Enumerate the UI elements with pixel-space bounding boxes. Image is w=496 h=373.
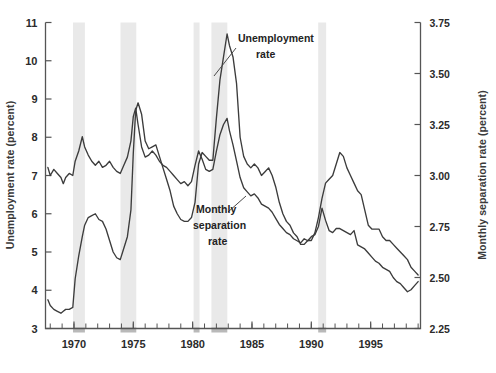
plot-frame bbox=[46, 23, 421, 329]
y-axis-left-title: Unemployment rate (percent) bbox=[4, 101, 16, 250]
plot-spines bbox=[46, 23, 421, 329]
y-axis-right-ticks: 2.252.502.753.003.253.503.75 bbox=[415, 17, 451, 335]
svg-text:rate: rate bbox=[208, 235, 227, 247]
annotation-unemployment-rate: Unemployment rate bbox=[238, 32, 314, 60]
y-tick-label: 8 bbox=[31, 131, 37, 143]
y-tick-label: 7 bbox=[31, 170, 37, 182]
x-tick-label: 1975 bbox=[121, 338, 145, 350]
svg-text:Unemployment: Unemployment bbox=[238, 32, 314, 44]
svg-text:Monthly: Monthly bbox=[196, 203, 236, 215]
y-axis-right-title: Monthly separation rate (percent) bbox=[476, 90, 488, 260]
y-tick-label: 11 bbox=[26, 17, 38, 29]
series-lines bbox=[48, 34, 418, 313]
y-tick-label: 9 bbox=[31, 93, 37, 105]
y-tick-label: 5 bbox=[31, 246, 37, 258]
x-tick-label: 1995 bbox=[358, 338, 382, 350]
recession-bands-group bbox=[73, 23, 326, 333]
y-axis-left-ticks: 34567891011 bbox=[25, 17, 51, 335]
svg-text:rate: rate bbox=[256, 48, 275, 60]
annotation-monthly-separation-rate: Monthly separation rate bbox=[193, 203, 246, 247]
y-tick-label: 3 bbox=[31, 323, 37, 335]
y2-tick-label: 3.00 bbox=[430, 170, 451, 182]
y2-tick-label: 3.50 bbox=[430, 68, 451, 80]
y-tick-label: 10 bbox=[25, 55, 37, 67]
y-tick-label: 4 bbox=[31, 284, 38, 296]
series-line-unemployment-rate bbox=[48, 34, 418, 313]
recession-band bbox=[194, 23, 200, 329]
y2-tick-label: 3.75 bbox=[430, 17, 451, 29]
x-tick-label: 1980 bbox=[180, 338, 204, 350]
y2-tick-label: 3.25 bbox=[430, 119, 451, 131]
x-tick-label: 1990 bbox=[299, 338, 323, 350]
y2-tick-label: 2.25 bbox=[430, 323, 451, 335]
y2-tick-label: 2.50 bbox=[430, 272, 451, 284]
y-tick-label: 6 bbox=[31, 208, 37, 220]
x-tick-label: 1985 bbox=[240, 338, 264, 350]
x-axis-ticks: 197019751980198519901995 bbox=[50, 322, 418, 350]
unemployment-separation-rate-chart: 34567891011 2.252.502.753.003.253.503.75… bbox=[0, 0, 496, 373]
chart-container: 34567891011 2.252.502.753.003.253.503.75… bbox=[0, 0, 496, 373]
recession-band bbox=[318, 23, 326, 329]
recession-band bbox=[121, 23, 137, 329]
y2-tick-label: 2.75 bbox=[430, 221, 451, 233]
x-tick-label: 1970 bbox=[62, 338, 86, 350]
svg-text:separation: separation bbox=[193, 219, 246, 231]
